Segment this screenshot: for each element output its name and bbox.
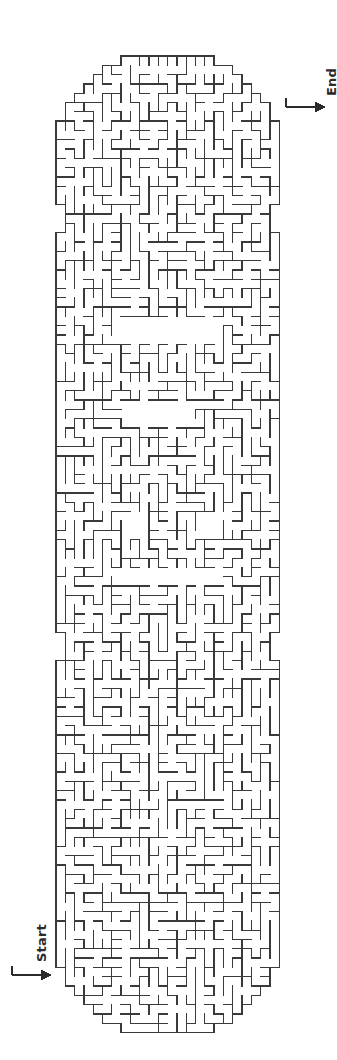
maze-graphic [0, 0, 337, 1060]
end-label: End [324, 68, 337, 96]
start-label: Start [34, 924, 49, 962]
maze-canvas: Start End [0, 0, 337, 1060]
maze-walls [56, 56, 279, 1033]
start-arrow-right-icon-head [42, 971, 50, 979]
end-arrow-right-icon-head [316, 103, 324, 111]
